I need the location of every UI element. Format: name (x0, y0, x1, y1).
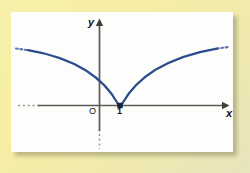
plot-canvas (0, 0, 250, 173)
figure-root: y x O 1 (0, 0, 250, 173)
x-axis-label: x (226, 108, 232, 119)
y-axis-arrowhead (96, 19, 103, 27)
curve-right-dashed-tail (217, 47, 229, 49)
origin-label: O (89, 107, 96, 116)
y-axis-label: y (88, 17, 94, 28)
curve-right-branch (120, 49, 217, 106)
x-tick-label-one: 1 (117, 107, 122, 116)
curve-left-dashed-tail (16, 49, 28, 51)
curve-left-branch (28, 50, 120, 105)
